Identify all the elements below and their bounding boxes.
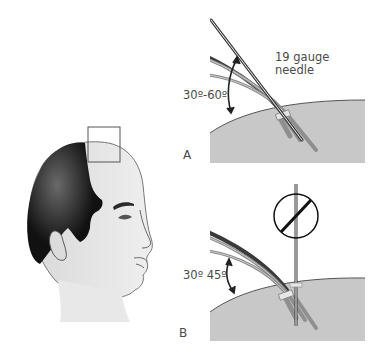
head-profile-illustration	[27, 127, 152, 322]
panel-b-angle-label: 30º 45º	[183, 270, 227, 282]
needle-gauge-label: 19 gauge needle	[275, 51, 345, 77]
panel-b-angle-arrow	[226, 259, 235, 293]
panel-a-angle-arrow	[227, 57, 240, 113]
panel-a-angle-label: 30º-60º	[183, 90, 227, 102]
panel-b	[177, 184, 365, 341]
panel-a-label: A	[183, 149, 191, 161]
panel-b-label: B	[179, 327, 187, 339]
